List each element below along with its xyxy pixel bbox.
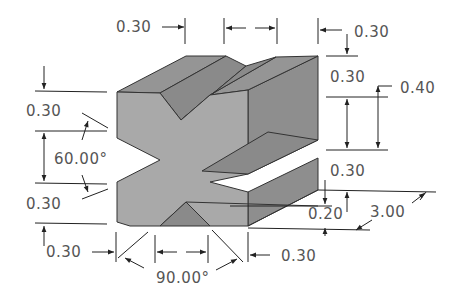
dim-left-lower-height: 0.30 [26, 195, 61, 213]
dim-left-angle: 60.00° [54, 150, 107, 168]
dim-bottom-angle: 90.00° [156, 269, 209, 287]
dim-bottom-right-width: 0.30 [281, 247, 316, 265]
dim-bottom-left-width: 0.30 [46, 243, 81, 261]
x-block [117, 56, 318, 226]
dim-top-left-width: 0.30 [116, 18, 151, 36]
dim-top-right-width: 0.30 [354, 23, 389, 41]
dim-right-upper-height: 0.30 [330, 68, 365, 86]
dim-right-slot-height: 0.40 [400, 79, 435, 97]
dim-right-lower-height: 0.30 [330, 162, 365, 180]
technical-drawing: 0.30 0.30 0.30 0.40 0.30 0.20 3.00 0.30 … [0, 0, 459, 304]
dim-depth: 3.00 [370, 203, 405, 221]
dim-left-upper-height: 0.30 [26, 102, 61, 120]
dim-right-base-height: 0.20 [308, 205, 343, 223]
